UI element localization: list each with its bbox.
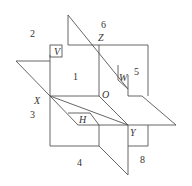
axis-z-label: Z (98, 32, 104, 43)
octant-8-label: 8 (140, 154, 145, 165)
axis-y-label: Y (130, 127, 137, 138)
octant-1-label: 1 (73, 71, 78, 82)
octant-3-label: 3 (30, 109, 35, 120)
w-plane-label: W (119, 72, 129, 83)
octant-2-label: 2 (30, 28, 35, 39)
octant-4-label: 4 (77, 157, 82, 168)
h-plane (16, 61, 176, 125)
octant-6-label: 6 (101, 19, 106, 30)
octant-diagram: 2 1 3 4 5 6 8 Z X Y O V W H (0, 0, 192, 186)
axis-x-label: X (33, 95, 41, 106)
v-plane-label: V (54, 46, 62, 57)
h-plane-label: H (78, 114, 87, 125)
origin-o-label: O (102, 89, 109, 100)
octant-5-label: 5 (134, 66, 139, 77)
